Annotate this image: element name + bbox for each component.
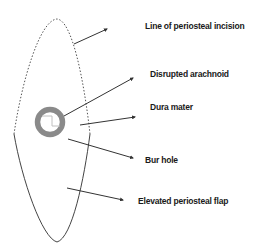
label-bur-hole: Bur hole <box>145 155 178 165</box>
arrow-flap <box>67 188 123 200</box>
label-elevated-periosteal-flap: Elevated periosteal flap <box>138 196 228 206</box>
periosteal-flap-outline <box>14 134 90 242</box>
label-periosteal-incision: Line of periosteal incision <box>145 21 244 31</box>
arrow-burhole <box>68 139 133 158</box>
label-disrupted-arachnoid: Disrupted arachnoid <box>150 69 229 79</box>
bur-hole-ring <box>38 110 63 135</box>
arrow-dura <box>80 117 135 125</box>
diagram-canvas <box>0 0 269 252</box>
arrow-incision <box>74 29 107 44</box>
label-dura-mater: Dura mater <box>150 102 193 112</box>
arrow-arachnoid <box>64 78 133 116</box>
